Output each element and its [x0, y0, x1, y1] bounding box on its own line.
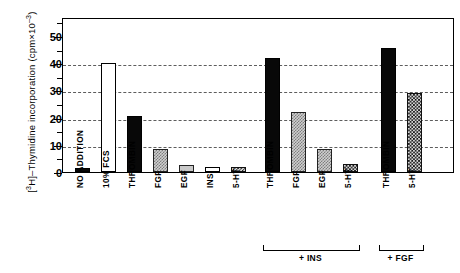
y-tick-label-10: 10: [14, 140, 62, 152]
group-bracket: [263, 245, 360, 251]
x-axis-tick-label: THROMBIN: [128, 141, 137, 188]
bar: [291, 112, 306, 172]
y-tick-label-50: 50: [14, 31, 62, 43]
x-axis-tick-label: 5-HT: [232, 168, 241, 188]
x-axis-tick-label: EGF: [318, 170, 327, 188]
x-axis-tick-label: 10% FCS: [102, 150, 111, 188]
x-axis-tick-label: NO ADDITION: [76, 130, 85, 188]
x-axis-tick-label: FGF: [154, 170, 163, 188]
y-axis-scale: 01020304050: [0, 0, 62, 273]
y-tick-label-40: 40: [14, 58, 62, 70]
x-axis-tick-label: 5-HT: [408, 168, 417, 188]
x-axis-tick-label: THROMBIN: [382, 141, 391, 188]
y-tick-label-20: 20: [14, 113, 62, 125]
bar: [407, 93, 422, 172]
group-bracket: [379, 245, 424, 251]
bar: [153, 149, 168, 172]
group-bracket-label: + FGF: [388, 253, 414, 263]
bar: [317, 149, 332, 172]
plot-area: [62, 18, 454, 173]
y-tick-label-0: 0: [14, 167, 62, 179]
x-axis-tick-label: 5-HT: [344, 168, 353, 188]
x-axis-tick-label: THROMBIN: [266, 141, 275, 188]
figure-root: [3H]–Thymidine incorporation (cpm×10–3) …: [0, 0, 460, 273]
group-bracket-label: + INS: [299, 253, 322, 263]
x-axis-tick-label: EGF: [180, 170, 189, 188]
y-tick-label-30: 30: [14, 85, 62, 97]
x-axis-tick-label: INS: [206, 173, 215, 188]
bar: [205, 167, 220, 172]
x-axis-tick-label: FGF: [292, 170, 301, 188]
